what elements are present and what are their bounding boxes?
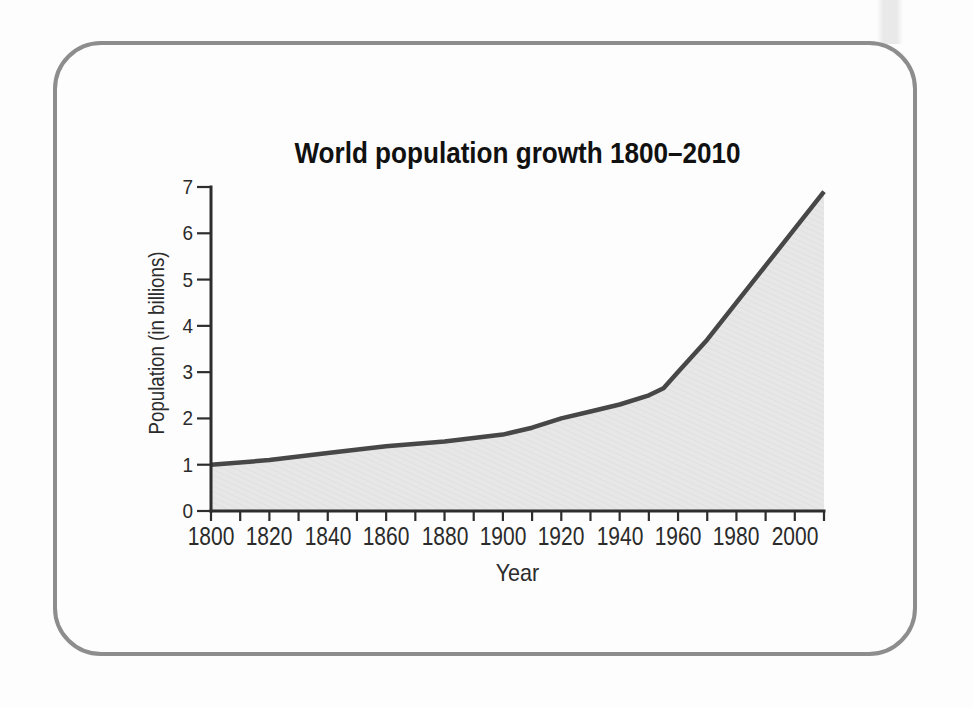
x-tick-label: 1820 (236, 524, 303, 549)
y-tick-label: 0 (146, 499, 193, 523)
x-tick-label: 1840 (294, 524, 361, 549)
y-tick-label: 1 (146, 453, 193, 477)
x-tick-label: 2000 (761, 524, 828, 549)
area-fill (211, 192, 824, 511)
y-tick-label: 7 (146, 175, 193, 199)
y-axis-title: Population (in billions) (144, 252, 170, 435)
x-tick-label: 1940 (586, 524, 653, 549)
x-tick-label: 1860 (353, 524, 420, 549)
x-tick-label: 1980 (703, 524, 770, 549)
x-tick-label: 1920 (528, 524, 595, 549)
x-tick-label: 1880 (411, 524, 478, 549)
x-axis-title: Year (242, 560, 794, 586)
page-background: { "page": { "background_color": "#fdfdfd… (0, 0, 973, 708)
y-tick-label: 6 (146, 221, 193, 245)
